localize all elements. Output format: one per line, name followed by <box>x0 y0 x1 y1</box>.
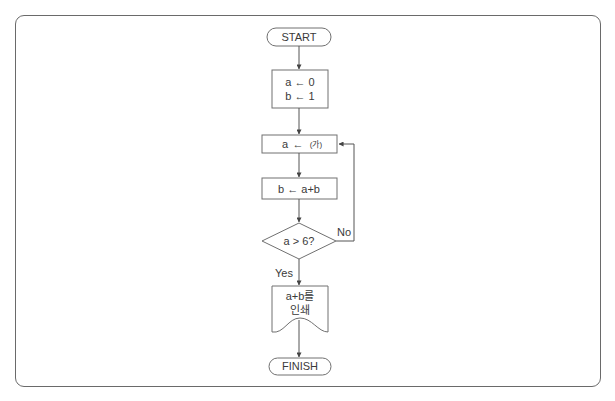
init-line-a: a ← 0 <box>285 76 314 88</box>
assign-b-process-box: b ← a+b <box>262 178 337 199</box>
start-terminal: START <box>267 28 331 46</box>
assign-b-label: b ← a+b <box>278 183 320 195</box>
decision-diamond: a > 6? <box>262 223 336 259</box>
assign-a-placeholder: (가) <box>310 140 323 149</box>
finish-label: FINISH <box>282 360 318 372</box>
assign-a-process-box: a ← (가) <box>262 135 337 153</box>
finish-terminal: FINISH <box>269 358 331 375</box>
assign-a-arrow: ← <box>293 138 304 150</box>
init-line-b: b ← 1 <box>285 90 314 102</box>
print-document-shape: a+b를 인쇄 <box>272 286 328 332</box>
start-label: START <box>281 31 316 43</box>
yes-label: Yes <box>275 267 293 279</box>
flowchart: START a ← 0 b ← 1 a ← (가) b ← a+b a > 6?… <box>0 0 615 401</box>
print-line-1: a+b를 <box>286 290 315 302</box>
decision-label: a > 6? <box>284 235 315 247</box>
assign-a-var: a <box>282 138 289 150</box>
print-line-2: 인쇄 <box>290 304 310 316</box>
no-label: No <box>337 226 351 238</box>
init-process-box: a ← 0 b ← 1 <box>272 70 328 108</box>
